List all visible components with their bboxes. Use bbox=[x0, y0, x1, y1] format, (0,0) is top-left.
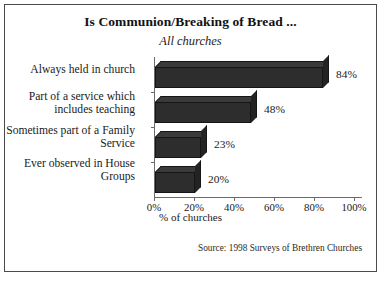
category-label-1: Part of a service which includes teachin… bbox=[0, 90, 135, 116]
chart-subtitle: All churches bbox=[5, 34, 376, 49]
source-note: Source: 1998 Surveys of Brethren Churche… bbox=[198, 243, 362, 253]
bar-3-front bbox=[155, 172, 195, 193]
category-label-2: Sometimes part of a Family Service bbox=[0, 124, 135, 150]
plot-area: 84% 48% 23% 20% 0% 20% 40% 60% 80% 100% bbox=[154, 57, 354, 197]
chart-title: Is Communion/Breaking of Bread ... bbox=[5, 14, 376, 30]
value-label-2: 23% bbox=[214, 138, 235, 150]
category-label-3: Ever observed in House Groups bbox=[0, 157, 135, 183]
value-label-1: 48% bbox=[264, 103, 285, 115]
value-label-3: 20% bbox=[208, 173, 229, 185]
y-tick-2 bbox=[151, 127, 155, 128]
y-tick-1 bbox=[151, 92, 155, 93]
y-tick-3 bbox=[151, 162, 155, 163]
value-label-0: 84% bbox=[336, 68, 357, 80]
bar-0-side bbox=[323, 55, 329, 88]
bar-2-side bbox=[201, 125, 207, 158]
x-axis-title: % of churches bbox=[5, 211, 376, 223]
category-label-0: Always held in church bbox=[0, 63, 135, 76]
bar-2-front bbox=[155, 137, 201, 158]
x-axis-line bbox=[154, 197, 362, 198]
bar-1-front bbox=[155, 102, 251, 123]
bar-3-side bbox=[195, 160, 201, 193]
bar-0-front bbox=[155, 67, 323, 88]
chart-frame: Is Communion/Breaking of Bread ... All c… bbox=[4, 4, 377, 272]
bar-1-side bbox=[251, 90, 257, 123]
